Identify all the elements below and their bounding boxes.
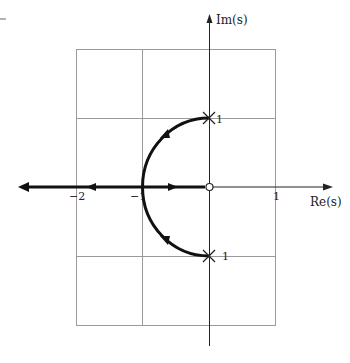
pole-upper-label: 1 xyxy=(216,113,223,126)
locus-arrow-right-icon xyxy=(168,183,178,191)
imag-axis-arrow-icon xyxy=(207,14,213,23)
real-axis-label: Re(s) xyxy=(310,195,342,209)
pole-lower-label: 1 xyxy=(222,250,229,263)
imaginary-axis: Im(s) xyxy=(207,13,248,346)
imag-axis-label: Im(s) xyxy=(216,13,248,27)
root-locus-diagram: Im(s) Re(s) −2 −1 1 1 1 xyxy=(0,0,350,363)
real-axis-arrow-icon xyxy=(323,184,333,191)
locus-arrow-left-end-icon xyxy=(18,182,29,192)
zero-origin-marker xyxy=(206,184,213,191)
tick-label-minus2: −2 xyxy=(69,190,85,203)
locus-real-axis xyxy=(18,182,205,192)
tick-label-1: 1 xyxy=(273,190,280,203)
locus-arrow-left-icon xyxy=(86,183,96,191)
